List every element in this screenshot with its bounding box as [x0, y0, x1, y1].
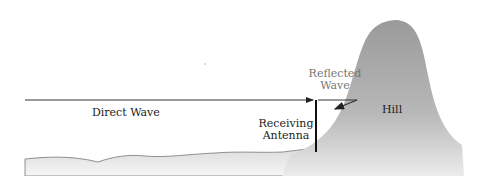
receiving-antenna-label-line2: Antenna	[258, 130, 314, 142]
direct-wave-label: Direct Wave	[92, 107, 160, 119]
hill-shape	[282, 20, 464, 176]
reflected-wave-label-line2: Wave	[305, 80, 365, 92]
speck	[204, 63, 206, 65]
hill-label: Hill	[382, 104, 402, 116]
ground-terrain	[25, 148, 315, 176]
receiving-antenna-label: Receiving Antenna	[258, 118, 314, 142]
propagation-diagram	[0, 0, 489, 176]
reflected-wave-label: Reflected Wave	[305, 68, 365, 92]
